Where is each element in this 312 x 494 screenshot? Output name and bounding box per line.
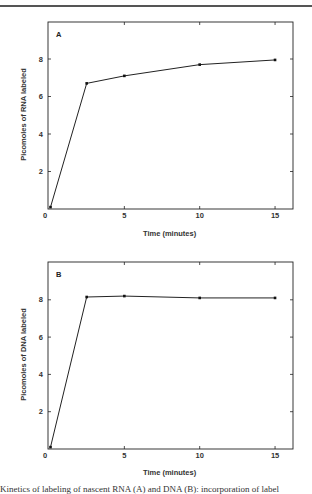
y-axis-label-b: Picomoles of DNA labeled [19, 295, 28, 415]
x-axis-label-b: Time (minutes) [143, 468, 196, 477]
x-tick-label: 5 [122, 451, 126, 460]
y-tick-label: 4 [39, 370, 44, 379]
x-tick-label: 10 [196, 451, 204, 460]
plot-frame [48, 262, 293, 449]
data-line [51, 296, 276, 447]
y-tick-label: 8 [39, 295, 43, 304]
data-point [85, 296, 88, 299]
data-point [49, 446, 52, 449]
panel-letter: B [56, 270, 62, 279]
y-tick-label: 6 [39, 333, 43, 342]
figure-caption: Kinetics of labeling of nascent RNA (A) … [0, 484, 312, 494]
data-point [198, 297, 201, 300]
x-tick-label: 15 [271, 451, 279, 460]
x-tick-label: 0 [43, 451, 47, 460]
data-point [123, 295, 126, 298]
data-point [274, 297, 277, 300]
y-tick-label: 2 [39, 407, 43, 416]
